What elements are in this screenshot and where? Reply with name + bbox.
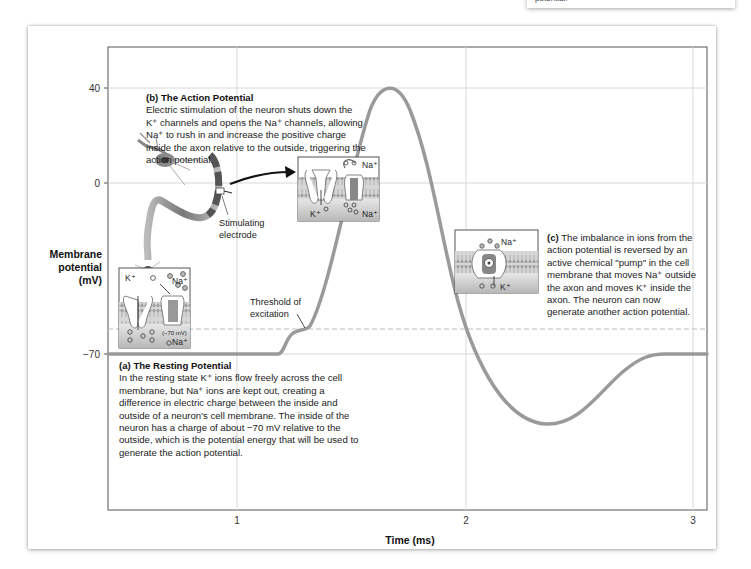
resting-voltage-label: (−70 mV) bbox=[162, 330, 187, 336]
y-title-line-3: (mV) bbox=[36, 274, 102, 287]
x-tick-3: 3 bbox=[690, 515, 696, 526]
action-na-bottom-label: Na⁺ bbox=[362, 209, 378, 219]
resting-potential-title: (a) The Resting Potential bbox=[119, 360, 369, 372]
pump-na-label: Na⁺ bbox=[501, 237, 517, 247]
resting-potential-annotation: (a) The Resting Potential In the resting… bbox=[119, 360, 369, 459]
pump-k-label: K⁺ bbox=[500, 282, 511, 292]
y-tick-0: 0 bbox=[94, 178, 100, 189]
action-k-label: K⁺ bbox=[310, 209, 321, 219]
resting-potential-body: In the resting state K⁺ ions flow freely… bbox=[119, 372, 358, 457]
y-axis-title: Membrane potential (mV) bbox=[36, 248, 102, 287]
ion-pump-title: (c) bbox=[547, 232, 559, 243]
action-potential-title: (b) The Action Potential bbox=[146, 92, 366, 104]
threshold-label: Threshold of excitation bbox=[250, 297, 301, 320]
action-potential-body: Electric stimulation of the neuron shuts… bbox=[146, 104, 366, 165]
ion-pump-annotation: (c) The imbalance in ions from the actio… bbox=[547, 232, 697, 319]
ion-pump-inset bbox=[455, 230, 538, 293]
ion-pump-body: The imbalance in ions from the action po… bbox=[547, 232, 696, 317]
x-tick-2: 2 bbox=[463, 515, 469, 526]
action-potential-annotation: (b) The Action Potential Electric stimul… bbox=[146, 92, 366, 166]
y-title-line-1: Membrane bbox=[36, 248, 102, 261]
resting-na-bottom-label: Na⁺ bbox=[172, 337, 188, 347]
electrode-line-2: electrode bbox=[219, 230, 264, 242]
electrode-label: Stimulating electrode bbox=[219, 218, 264, 241]
y-tick-neg70: −70 bbox=[83, 349, 100, 360]
y-title-line-2: potential bbox=[36, 261, 102, 274]
y-tick-40: 40 bbox=[89, 83, 101, 94]
x-axis-title: Time (ms) bbox=[385, 534, 434, 546]
resting-k-label: K⁺ bbox=[125, 273, 136, 283]
threshold-line-2: excitation bbox=[250, 309, 301, 321]
electrode-line-1: Stimulating bbox=[219, 218, 264, 230]
threshold-line-1: Threshold of bbox=[250, 297, 301, 309]
resting-na-label: Na⁺ bbox=[172, 276, 188, 286]
x-tick-1: 1 bbox=[234, 515, 240, 526]
